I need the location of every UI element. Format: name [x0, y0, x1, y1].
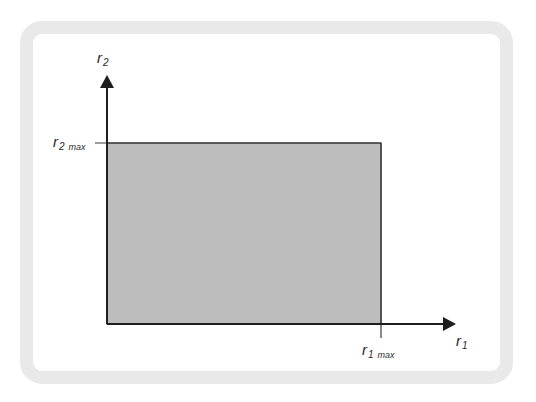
x-axis-arrow-icon: [443, 317, 456, 331]
x-axis-label: r1: [456, 333, 468, 349]
feasible-region: [107, 143, 381, 324]
y-axis-label: r2: [97, 50, 109, 66]
y-max-label: r2max: [53, 134, 86, 150]
y-axis-arrow-icon: [100, 75, 114, 88]
x-max-label: r1max: [362, 342, 395, 358]
